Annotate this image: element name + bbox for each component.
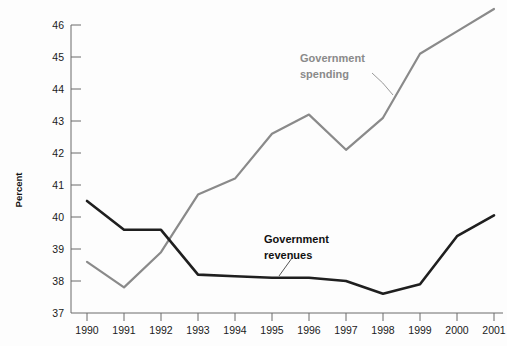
y-tick-label: 39 — [52, 243, 64, 255]
x-tick-label: 1996 — [297, 324, 321, 336]
y-tick-label: 42 — [52, 147, 64, 159]
y-tick-label: 38 — [52, 275, 64, 287]
x-tick-label: 1994 — [223, 324, 247, 336]
y-tick-label: 41 — [52, 179, 64, 191]
revenues-label-line2: revenues — [264, 249, 312, 261]
y-tick-label: 45 — [52, 51, 64, 63]
x-tick-label: 2001 — [482, 324, 506, 336]
x-tick-label: 1999 — [408, 324, 432, 336]
line-chart: Percent 46 45 44 43 42 41 40 39 38 37 — [0, 0, 507, 346]
spending-label-line1: Government — [300, 52, 365, 64]
y-tick-label: 43 — [52, 115, 64, 127]
chart-background — [0, 0, 507, 346]
x-tick-label: 1993 — [186, 324, 210, 336]
y-tick-label: 44 — [52, 83, 64, 95]
x-tick-label: 1995 — [260, 324, 284, 336]
spending-label-line2: spending — [300, 68, 349, 80]
y-tick-label: 46 — [52, 19, 64, 31]
revenues-label-line1: Government — [264, 233, 329, 245]
x-tick-label: 2000 — [445, 324, 469, 336]
x-tick-label: 1990 — [75, 324, 99, 336]
y-tick-label: 40 — [52, 211, 64, 223]
x-tick-label: 1998 — [371, 324, 395, 336]
x-tick-label: 1991 — [112, 324, 136, 336]
x-tick-label: 1997 — [334, 324, 358, 336]
y-tick-label: 37 — [52, 307, 64, 319]
x-tick-label: 1992 — [149, 324, 173, 336]
y-axis-title: Percent — [13, 172, 24, 208]
chart-container: Percent 46 45 44 43 42 41 40 39 38 37 — [0, 0, 507, 346]
